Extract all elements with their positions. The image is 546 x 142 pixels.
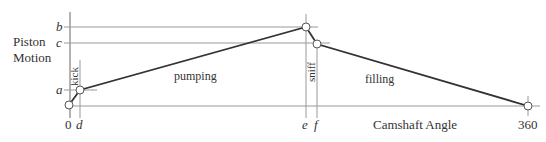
x-axis-label: Camshaft Angle bbox=[373, 117, 457, 132]
b-tick-label: b bbox=[56, 19, 63, 34]
piston-motion-curve bbox=[69, 27, 528, 106]
filling-phase-label: filling bbox=[365, 72, 394, 86]
d-point bbox=[76, 86, 84, 94]
kick-phase-label: kick bbox=[68, 67, 80, 86]
f-point bbox=[313, 40, 321, 48]
y-axis-label-line2: Motion bbox=[13, 50, 52, 65]
end-point bbox=[524, 102, 532, 110]
y-axis-label-line1: Piston bbox=[13, 34, 46, 49]
a-tick-label: a bbox=[56, 82, 63, 97]
e-point bbox=[302, 23, 310, 31]
sniff-phase-label: sniff bbox=[305, 62, 317, 82]
piston-motion-diagram: Piston Motion b c a 0 d e f 360 Camshaft… bbox=[0, 0, 546, 142]
zero-tick-label: 0 bbox=[65, 117, 72, 132]
e-tick-label: e bbox=[302, 117, 308, 132]
origin-point bbox=[65, 101, 73, 109]
c-tick-label: c bbox=[56, 35, 62, 50]
end-tick-label: 360 bbox=[518, 117, 538, 132]
f-tick-label: f bbox=[314, 117, 320, 132]
pumping-phase-label: pumping bbox=[174, 69, 217, 83]
d-tick-label: d bbox=[76, 117, 83, 132]
